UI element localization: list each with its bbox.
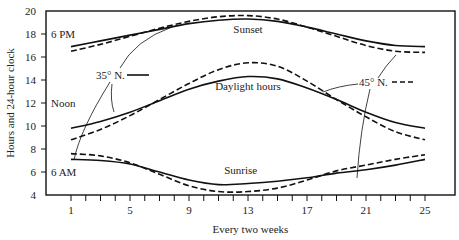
legend-45n-label: 45° N. bbox=[359, 76, 388, 88]
x-tick-label: 1 bbox=[68, 204, 74, 216]
y-tick-label: 10 bbox=[25, 120, 37, 132]
y-annotation-label: 6 PM bbox=[51, 28, 75, 40]
pointer-arrow bbox=[378, 55, 396, 78]
x-tick-label: 21 bbox=[361, 204, 372, 216]
x-tick-label: 25 bbox=[420, 204, 432, 216]
y-tick-label: 18 bbox=[25, 28, 37, 40]
y-annotation-label: Noon bbox=[51, 97, 76, 109]
x-tick-label: 9 bbox=[186, 204, 192, 216]
y-tick-label: 14 bbox=[25, 74, 37, 86]
y-tick-label: 20 bbox=[25, 5, 37, 17]
x-axis-label: Every two weeks bbox=[213, 223, 289, 235]
chart: 466 AM81012Noon1416186 PM2015913172125Ev… bbox=[0, 0, 459, 240]
annotations: SunsetDaylight hoursSunrise35° N.45° N. bbox=[74, 23, 413, 178]
x-tick-label: 13 bbox=[243, 204, 255, 216]
x-tick-label: 5 bbox=[127, 204, 133, 216]
curve-label: Sunset bbox=[233, 23, 262, 35]
y-tick-label: 8 bbox=[31, 143, 37, 155]
y-tick-label: 12 bbox=[25, 97, 36, 109]
pointer-arrow bbox=[111, 84, 114, 112]
y-tick-label: 4 bbox=[31, 189, 37, 201]
curve-label: Daylight hours bbox=[215, 80, 281, 92]
y-annotation-label: 6 AM bbox=[51, 166, 77, 178]
x-tick-label: 17 bbox=[302, 204, 314, 216]
y-tick-label: 6 bbox=[31, 166, 37, 178]
pointer-arrow bbox=[120, 27, 172, 68]
curve-label: Sunrise bbox=[224, 164, 257, 176]
legend-35n-label: 35° N. bbox=[96, 69, 125, 81]
y-axis-label: Hours and 24-hour clock bbox=[4, 48, 16, 158]
y-tick-label: 16 bbox=[25, 51, 37, 63]
pointer-arrow bbox=[323, 84, 358, 92]
